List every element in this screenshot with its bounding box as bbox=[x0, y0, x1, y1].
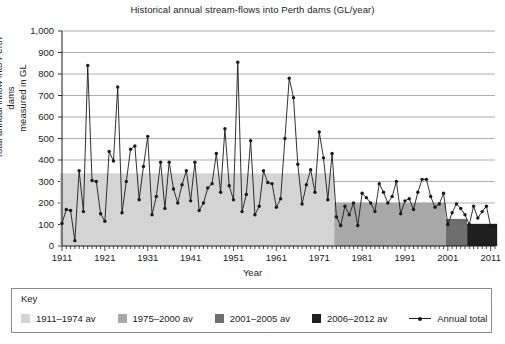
series-point bbox=[176, 201, 179, 204]
series-point bbox=[137, 198, 140, 201]
x-tick-label: 2011 bbox=[480, 252, 500, 263]
series-point bbox=[249, 139, 252, 142]
series-point bbox=[223, 127, 226, 130]
y-tick-label: 200 bbox=[38, 197, 54, 208]
legend-item-1975-2000 av: 1975–2000 av bbox=[118, 313, 193, 324]
y-axis-tick-labels: 01002003004005006007008009001,000 bbox=[30, 25, 54, 251]
series-point bbox=[412, 208, 415, 211]
series-point bbox=[69, 209, 72, 212]
series-point bbox=[215, 152, 218, 155]
legend-title: Key bbox=[21, 293, 37, 304]
series-point bbox=[382, 191, 385, 194]
series-point bbox=[429, 195, 432, 198]
legend-items: 1911–1974 av1975–2000 av2001–2005 av2006… bbox=[21, 313, 505, 324]
series-point bbox=[232, 198, 235, 201]
series-point bbox=[425, 178, 428, 181]
y-tick-label: 300 bbox=[38, 176, 54, 187]
average-band bbox=[467, 224, 497, 246]
series-point bbox=[258, 205, 261, 208]
series-point bbox=[326, 198, 329, 201]
legend-item-2006-2012 av: 2006–2012 av bbox=[312, 313, 387, 324]
series-point bbox=[275, 206, 278, 209]
series-point bbox=[116, 85, 119, 88]
legend-swatch bbox=[312, 314, 321, 323]
series-point bbox=[99, 212, 102, 215]
series-point bbox=[163, 207, 166, 210]
series-point bbox=[180, 183, 183, 186]
series-point bbox=[125, 180, 128, 183]
series-point bbox=[142, 165, 145, 168]
series-point bbox=[489, 225, 492, 228]
series-point bbox=[253, 213, 256, 216]
series-point bbox=[197, 209, 200, 212]
x-tick-label: 1971 bbox=[309, 252, 330, 263]
series-point bbox=[386, 201, 389, 204]
x-tick-label: 1961 bbox=[266, 252, 287, 263]
series-point bbox=[245, 193, 248, 196]
series-point bbox=[65, 208, 68, 211]
legend-label: 1911–1974 av bbox=[36, 313, 96, 324]
legend-item-1911-1974 av: 1911–1974 av bbox=[21, 313, 96, 324]
series-point bbox=[86, 64, 89, 67]
series-point bbox=[446, 223, 449, 226]
series-point bbox=[468, 223, 471, 226]
x-axis-tick-marks bbox=[62, 246, 495, 251]
series-point bbox=[262, 169, 265, 172]
series-point bbox=[442, 192, 445, 195]
series-point bbox=[480, 210, 483, 213]
legend-swatch bbox=[21, 314, 30, 323]
series-point bbox=[476, 216, 479, 219]
series-point bbox=[450, 211, 453, 214]
series-point bbox=[296, 163, 299, 166]
x-tick-label: 1981 bbox=[352, 252, 373, 263]
series-point bbox=[420, 178, 423, 181]
series-point bbox=[159, 160, 162, 163]
series-point bbox=[416, 191, 419, 194]
series-point bbox=[463, 213, 466, 216]
series-point bbox=[309, 168, 312, 171]
series-point bbox=[82, 210, 85, 213]
y-tick-label: 600 bbox=[38, 111, 54, 122]
series-point bbox=[236, 60, 239, 63]
series-point bbox=[343, 205, 346, 208]
series-point bbox=[90, 179, 93, 182]
series-point bbox=[485, 205, 488, 208]
series-point bbox=[150, 213, 153, 216]
series-point bbox=[360, 192, 363, 195]
series-point bbox=[459, 207, 462, 210]
legend-swatch bbox=[215, 314, 224, 323]
series-point bbox=[279, 197, 282, 200]
series-point bbox=[266, 181, 269, 184]
series-point bbox=[129, 148, 132, 151]
series-point bbox=[352, 201, 355, 204]
series-point bbox=[103, 220, 106, 223]
y-tick-label: 0 bbox=[49, 240, 54, 251]
legend-label: 1975–2000 av bbox=[133, 313, 193, 324]
series-point bbox=[112, 159, 115, 162]
legend: Key 1911–1974 av1975–2000 av2001–2005 av… bbox=[11, 288, 492, 333]
series-point bbox=[146, 135, 149, 138]
series-point bbox=[330, 152, 333, 155]
x-tick-label: 2001 bbox=[437, 252, 458, 263]
series-point bbox=[77, 169, 80, 172]
series-point bbox=[472, 205, 475, 208]
y-tick-label: 900 bbox=[38, 47, 54, 58]
series-point bbox=[455, 202, 458, 205]
series-point bbox=[202, 201, 205, 204]
plot-area: 01002003004005006007008009001,000 191119… bbox=[0, 0, 505, 290]
legend-item-2001-2005 av: 2001–2005 av bbox=[215, 313, 290, 324]
series-point bbox=[228, 184, 231, 187]
series-point bbox=[305, 183, 308, 186]
series-point bbox=[493, 224, 496, 227]
series-point bbox=[120, 211, 123, 214]
legend-label: Annual total bbox=[437, 313, 487, 324]
x-tick-label: 1941 bbox=[180, 252, 201, 263]
series-point bbox=[167, 160, 170, 163]
y-tick-label: 100 bbox=[38, 219, 54, 230]
series-point bbox=[292, 96, 295, 99]
series-point bbox=[189, 199, 192, 202]
y-tick-label: 700 bbox=[38, 90, 54, 101]
x-tick-label: 1991 bbox=[394, 252, 415, 263]
legend-label: 2001–2005 av bbox=[230, 313, 290, 324]
x-axis-label: Year bbox=[0, 267, 505, 278]
